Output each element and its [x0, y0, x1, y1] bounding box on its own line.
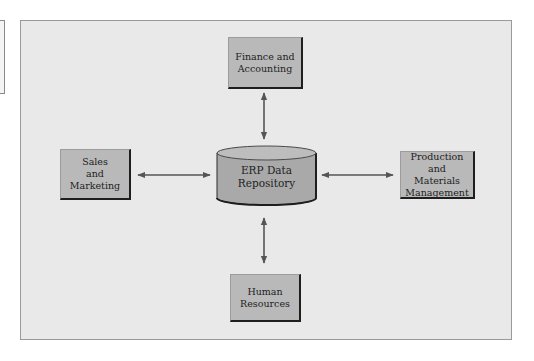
node-sales-marketing: Sales and Marketing [60, 149, 131, 200]
node-human-resources: Human Resources [230, 274, 301, 322]
node-label: Production and Materials Management [401, 151, 473, 199]
node-label: Finance and Accounting [235, 51, 294, 75]
node-finance-accounting: Finance and Accounting [228, 37, 303, 89]
node-label: Human Resources [240, 286, 290, 310]
repository-label: ERP Data Repository [216, 164, 317, 190]
node-production-materials: Production and Materials Management [400, 151, 475, 199]
node-label: Sales and Marketing [70, 156, 120, 192]
